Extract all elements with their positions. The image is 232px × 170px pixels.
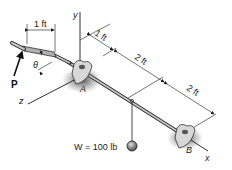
theta-label: θ [33, 60, 38, 70]
dim-label-mid-1: 2 ft [133, 52, 149, 67]
diagram-canvas: y z x 1 ft 2 ft 2 ft 1 ft θ P A B W [0, 0, 232, 170]
z-axis-label: z [18, 96, 24, 106]
crank-rod-highlight [54, 55, 70, 63]
theta-arrow [40, 72, 42, 75]
force-p-arrow [14, 52, 22, 76]
y-axis-label: y [72, 10, 78, 20]
support-b-label: B [186, 145, 192, 155]
support-a-hole [79, 65, 85, 69]
dim-label-a-offset: 1 ft [93, 28, 109, 43]
dim-label-mid-2: 2 ft [185, 83, 201, 98]
shaft-diagram: y z x 1 ft 2 ft 2 ft 1 ft θ P A B W [0, 0, 232, 170]
dim-ext-line [103, 48, 116, 56]
theta-ref-line [38, 62, 52, 70]
force-p-label: P [11, 79, 18, 90]
support-b-hole [182, 130, 188, 134]
dim-ext-line [128, 77, 163, 98]
support-a-label: A [79, 84, 86, 94]
dim-label-handle: 1 ft [34, 19, 47, 29]
weight-label: W = 100 lb [74, 142, 117, 152]
x-axis-label: x [204, 153, 210, 163]
crank-handle [22, 46, 56, 57]
weight-ball [127, 141, 137, 151]
